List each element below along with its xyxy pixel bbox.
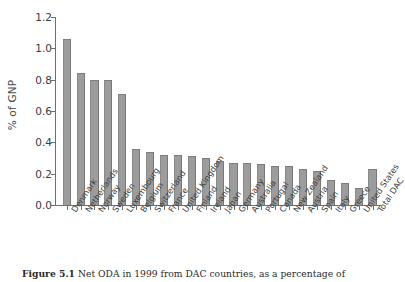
y-axis-tick-label: 0.2 [35, 168, 52, 180]
y-axis-tick-mark [51, 205, 55, 206]
y-axis-tick-label: 1.2 [35, 11, 52, 23]
y-axis-tick-label: 0.4 [35, 136, 52, 148]
y-axis-tick-mark [51, 17, 55, 18]
bar [63, 39, 71, 205]
y-axis-tick-mark [51, 174, 55, 175]
y-axis-tick-label: 0.0 [35, 199, 52, 211]
y-axis-tick-labels: 0.00.20.40.60.81.01.2 [22, 0, 52, 282]
y-axis-tick-label: 0.6 [35, 105, 52, 117]
y-axis-tick-mark [51, 48, 55, 49]
y-axis-tick-mark [51, 142, 55, 143]
y-axis-tick-mark [51, 111, 55, 112]
y-axis-tick-mark [51, 80, 55, 81]
y-axis-tick-label: 1.0 [35, 42, 52, 54]
y-axis-title-text: % of GNP [6, 80, 18, 131]
y-axis-title: % of GNP [2, 0, 22, 210]
y-axis-tick-label: 0.8 [35, 74, 52, 86]
figure-caption-number: Figure 5.1 [22, 268, 75, 279]
figure-caption: Figure 5.1 Net ODA in 1999 from DAC coun… [22, 268, 372, 279]
figure-caption-text: Net ODA in 1999 from DAC countries, as a… [78, 268, 345, 279]
